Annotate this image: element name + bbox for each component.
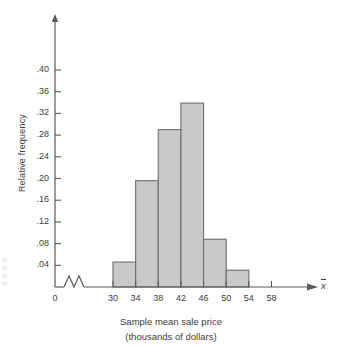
histogram-bar bbox=[136, 181, 159, 287]
x-bar-symbol: x bbox=[321, 279, 326, 291]
x-axis-caption-line1: Sample mean sale price bbox=[0, 316, 342, 327]
histogram-bar bbox=[181, 103, 204, 287]
histogram-bar bbox=[158, 130, 181, 287]
x-axis-caption-line2: (thousands of dollars) bbox=[0, 331, 342, 342]
y-axis-arrowhead bbox=[52, 14, 58, 22]
x-axis-arrowhead bbox=[307, 284, 318, 291]
histogram-bar bbox=[113, 262, 136, 287]
histogram-bar bbox=[204, 239, 227, 287]
histogram-figure: 0 0 0 0 Relative frequency .04.08.12.16.… bbox=[0, 0, 342, 346]
histogram-bars bbox=[113, 103, 249, 287]
axis-break-symbol bbox=[64, 276, 84, 287]
histogram-bar bbox=[226, 270, 249, 287]
x-variable-symbol: x bbox=[321, 279, 326, 291]
histogram-plot bbox=[0, 0, 342, 346]
